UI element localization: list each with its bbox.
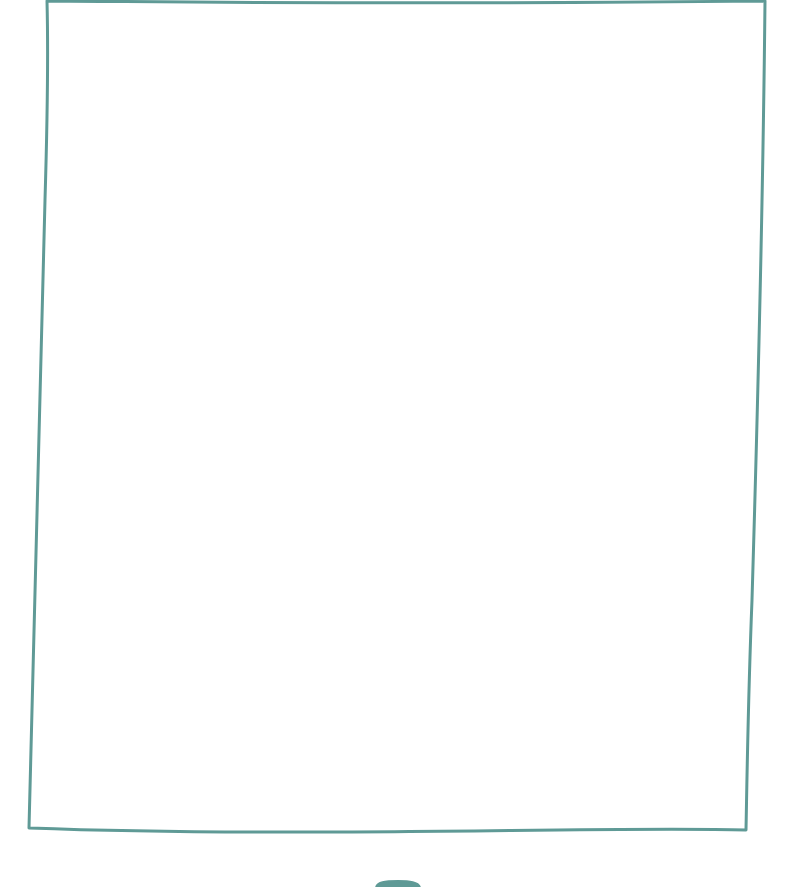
bottom-tab-shape [376, 881, 420, 887]
drawing-canvas [0, 0, 790, 887]
hand-drawn-frame [0, 0, 790, 887]
